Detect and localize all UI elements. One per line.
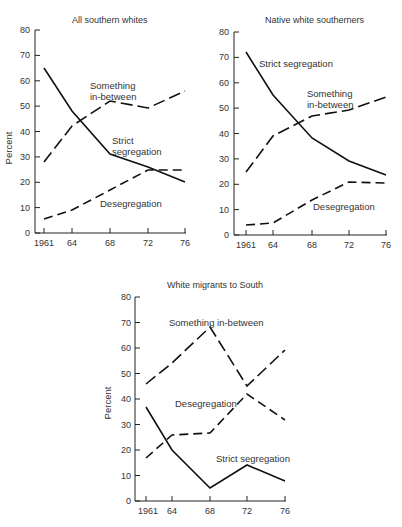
chart-native-white-southerners: Native white southerners 010 2030 4050 6… — [219, 15, 391, 250]
svg-text:10: 10 — [20, 203, 30, 213]
annotation: segregation — [112, 146, 162, 157]
svg-text:68: 68 — [307, 240, 317, 250]
svg-text:70: 70 — [219, 52, 229, 62]
series-strict-segregation — [146, 407, 285, 488]
annotation: Desegregation — [313, 201, 375, 212]
svg-text:68: 68 — [105, 238, 115, 248]
y-ticks — [234, 32, 239, 235]
chart-title: Native white southerners — [265, 15, 365, 25]
svg-text:1961: 1961 — [34, 238, 54, 248]
svg-text:72: 72 — [242, 506, 252, 516]
svg-text:60: 60 — [20, 76, 30, 86]
svg-text:70: 70 — [20, 50, 30, 60]
svg-text:40: 40 — [219, 129, 229, 139]
svg-text:50: 50 — [121, 369, 131, 379]
x-tick-labels: 196164 6872 76 — [236, 240, 391, 250]
y-axis-label: Percent — [102, 386, 113, 419]
x-ticks — [146, 496, 285, 501]
svg-text:76: 76 — [381, 240, 391, 250]
svg-text:40: 40 — [121, 394, 131, 404]
annotation: Strict segregation — [259, 58, 333, 69]
x-ticks — [44, 228, 185, 233]
svg-text:30: 30 — [219, 154, 229, 164]
svg-text:70: 70 — [121, 318, 131, 328]
svg-text:64: 64 — [268, 240, 278, 250]
annotation: Strict — [112, 135, 134, 146]
svg-text:10: 10 — [219, 205, 229, 215]
annotation: Strict segregation — [216, 453, 290, 464]
svg-text:0: 0 — [25, 228, 30, 238]
svg-text:80: 80 — [121, 292, 131, 302]
svg-text:60: 60 — [219, 78, 229, 88]
annotation: in-between — [307, 99, 353, 110]
figure: All southern whites Percent 010 2030 405… — [0, 0, 402, 527]
series-something-in-between — [146, 327, 285, 386]
y-ticks — [135, 297, 140, 501]
svg-text:72: 72 — [344, 240, 354, 250]
svg-text:20: 20 — [121, 445, 131, 455]
y-tick-labels: 010 2030 4050 6070 80 — [20, 25, 30, 238]
svg-text:1961: 1961 — [236, 240, 256, 250]
y-tick-labels: 010 2030 4050 6070 80 — [219, 27, 229, 240]
svg-text:30: 30 — [20, 152, 30, 162]
annotation: Something — [90, 80, 135, 91]
svg-text:30: 30 — [121, 420, 131, 430]
x-ticks — [246, 230, 386, 235]
chart-title: White migrants to South — [167, 280, 263, 290]
chart-all-southern-whites: All southern whites Percent 010 2030 405… — [3, 15, 190, 248]
svg-text:50: 50 — [219, 103, 229, 113]
svg-text:68: 68 — [205, 506, 215, 516]
svg-text:76: 76 — [280, 506, 290, 516]
annotation: Something — [307, 88, 352, 99]
svg-text:0: 0 — [224, 230, 229, 240]
x-tick-labels: 196164 6872 76 — [138, 506, 290, 516]
svg-text:10: 10 — [121, 471, 131, 481]
annotation: in-between — [90, 91, 136, 102]
svg-text:64: 64 — [67, 238, 77, 248]
annotation: Something in-between — [169, 317, 264, 328]
x-tick-labels: 196164 6872 76 — [34, 238, 190, 248]
y-ticks — [35, 30, 40, 233]
chart-title: All southern whites — [72, 15, 148, 25]
y-axis-label: Percent — [3, 131, 14, 164]
svg-text:64: 64 — [167, 506, 177, 516]
y-tick-labels: 010 2030 4050 6070 80 — [121, 292, 131, 506]
series-desegregation — [44, 170, 185, 219]
svg-text:60: 60 — [121, 343, 131, 353]
svg-text:72: 72 — [143, 238, 153, 248]
series-strict-segregation — [246, 52, 386, 175]
svg-text:20: 20 — [20, 177, 30, 187]
svg-text:50: 50 — [20, 101, 30, 111]
svg-text:0: 0 — [126, 496, 131, 506]
svg-text:40: 40 — [20, 127, 30, 137]
annotation: Desegregation — [100, 198, 162, 209]
svg-text:76: 76 — [180, 238, 190, 248]
svg-text:20: 20 — [219, 179, 229, 189]
annotation: Desegregation — [175, 398, 237, 409]
chart-white-migrants-to-south: White migrants to South Percent 010 2030… — [102, 280, 290, 516]
svg-text:80: 80 — [219, 27, 229, 37]
svg-text:1961: 1961 — [138, 506, 158, 516]
svg-text:80: 80 — [20, 25, 30, 35]
